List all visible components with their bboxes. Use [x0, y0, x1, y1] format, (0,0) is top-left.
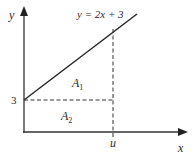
- x-axis-label: x: [177, 141, 184, 154]
- region-a1-label: A1: [71, 76, 83, 92]
- x-axis-arrow-icon: [178, 128, 188, 136]
- equation-label: y = 2x + 3: [76, 8, 124, 20]
- x-mark-label: u: [110, 136, 116, 150]
- y-axis-label: y: [8, 8, 15, 22]
- y-intercept-label: 3: [11, 94, 17, 106]
- region-a2-label: A2: [60, 109, 72, 125]
- y-axis-arrow-icon: [20, 6, 28, 16]
- diagram-canvas: y x y = 2x + 3 3 u A1 A2: [0, 0, 196, 154]
